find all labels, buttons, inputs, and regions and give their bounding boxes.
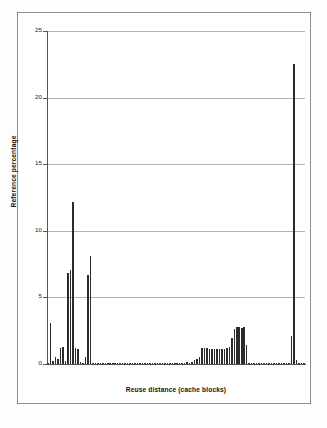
bar — [80, 362, 82, 364]
bar — [189, 363, 191, 364]
bar — [70, 270, 72, 364]
bar — [246, 345, 248, 364]
bar — [152, 363, 154, 364]
bar — [261, 363, 263, 364]
bar — [174, 363, 176, 364]
bar — [157, 363, 159, 364]
bar — [122, 363, 124, 364]
bar — [234, 329, 236, 364]
bar — [214, 349, 216, 364]
bar — [196, 359, 198, 364]
bar — [209, 349, 211, 364]
bar — [149, 363, 151, 364]
y-tick-label-15: 15 — [16, 160, 42, 166]
bar — [75, 348, 77, 364]
bar — [92, 363, 94, 364]
bar — [229, 347, 231, 364]
bar — [288, 363, 290, 364]
chart-figure: 25 20 15 10 5 0 Reference percentage Reu… — [0, 0, 327, 428]
bar — [301, 363, 303, 364]
bar — [226, 348, 228, 364]
bar — [251, 363, 253, 364]
bar — [256, 363, 258, 364]
bar — [204, 348, 206, 364]
bar — [124, 363, 126, 364]
bar — [117, 363, 119, 364]
bar — [221, 349, 223, 364]
bar — [105, 363, 107, 364]
bar — [162, 363, 164, 364]
bar — [90, 256, 92, 364]
bar — [102, 363, 104, 364]
bar — [100, 363, 102, 364]
bar — [303, 363, 305, 364]
bar — [238, 327, 240, 364]
bar — [82, 363, 84, 364]
bar — [129, 363, 131, 364]
bar — [169, 363, 171, 364]
bar — [258, 363, 260, 364]
bar — [224, 349, 226, 364]
bar — [107, 363, 109, 364]
bar — [273, 363, 275, 364]
bar — [47, 363, 49, 364]
bar — [142, 363, 144, 364]
bar — [241, 328, 243, 364]
bar — [109, 363, 111, 364]
bar — [65, 361, 67, 364]
bar — [186, 362, 188, 364]
y-tick-label-25: 25 — [16, 27, 42, 33]
bar — [296, 360, 298, 364]
y-tick-label-10: 10 — [16, 227, 42, 233]
bar — [127, 363, 129, 364]
bar — [167, 363, 169, 364]
bar — [147, 363, 149, 364]
bar — [62, 347, 64, 364]
y-tick-label-5: 5 — [16, 293, 42, 299]
bar — [87, 275, 89, 364]
bar — [144, 363, 146, 364]
bar — [119, 363, 121, 364]
bar — [97, 363, 99, 364]
bar — [216, 349, 218, 364]
bar — [199, 357, 201, 364]
y-tick-mark-0 — [43, 364, 47, 365]
bar — [201, 348, 203, 364]
bar — [154, 363, 156, 364]
bar — [50, 323, 52, 364]
y-tick-label-0: 0 — [16, 360, 42, 366]
bar — [60, 348, 62, 364]
bar — [219, 349, 221, 364]
y-tick-label-20: 20 — [16, 94, 42, 100]
bar — [266, 363, 268, 364]
bar — [179, 363, 181, 364]
bar — [278, 363, 280, 364]
bar — [276, 363, 278, 364]
bar — [95, 363, 97, 364]
bar — [77, 349, 79, 364]
bar — [194, 360, 196, 364]
bar — [159, 363, 161, 364]
bar — [286, 363, 288, 364]
bar — [298, 363, 300, 364]
bar — [176, 363, 178, 364]
x-axis-title: Reuse distance (cache blocks) — [47, 386, 305, 393]
bar — [85, 357, 87, 364]
x-axis-line — [47, 364, 306, 365]
bar — [164, 363, 166, 364]
bar — [281, 363, 283, 364]
bar — [137, 363, 139, 364]
bar — [283, 363, 285, 364]
bar — [248, 363, 250, 364]
bar — [231, 338, 233, 364]
bar — [172, 363, 174, 364]
bar — [206, 348, 208, 364]
bar — [139, 363, 141, 364]
bar — [263, 363, 265, 364]
bar — [271, 363, 273, 364]
bar — [114, 363, 116, 364]
bar — [52, 361, 54, 364]
bar — [293, 64, 295, 364]
bar — [181, 363, 183, 364]
bar — [184, 363, 186, 364]
